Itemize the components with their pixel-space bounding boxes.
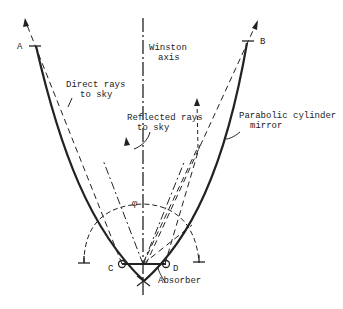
label-mirror-2: mirror — [250, 121, 282, 131]
reflected-left-arrow-icon — [124, 137, 130, 146]
label-direct-rays-1: Direct rays — [66, 80, 125, 90]
reflected-rays-leader — [134, 132, 150, 149]
label-absorber: Absorber — [158, 276, 201, 286]
ray-absorber-up — [165, 145, 200, 264]
reflected-ray-arrow-icon — [194, 98, 200, 106]
mirror-leader — [226, 132, 240, 139]
label-reflected-rays-1: Reflected rays — [127, 113, 203, 123]
diagram-canvas: A B C D Winston axis Direct rays to sky … — [0, 0, 343, 309]
label-point-a: A — [17, 42, 23, 52]
ray-c-right — [143, 147, 198, 264]
arrow-b-icon — [252, 20, 258, 30]
label-mirror-1: Parabolic cylinder — [239, 111, 336, 121]
ray-right-cross — [143, 160, 185, 264]
label-point-c: C — [108, 264, 114, 274]
label-direct-rays-2: to sky — [80, 90, 113, 100]
parabolic-mirror-right — [144, 43, 247, 281]
direct-rays-leader — [68, 98, 72, 107]
direct-ray-left — [25, 20, 122, 264]
arrow-a-icon — [23, 18, 29, 27]
label-point-b: B — [260, 37, 266, 47]
label-winston-axis-1: Winston — [149, 43, 187, 53]
reflected-ray — [197, 102, 198, 148]
label-winston-axis-2: axis — [158, 53, 180, 63]
label-point-d: D — [173, 264, 178, 274]
label-angle: φ — [132, 199, 138, 209]
label-reflected-rays-2: to sky — [137, 123, 170, 133]
